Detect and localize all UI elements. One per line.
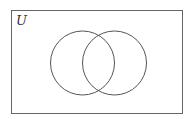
- venn-diagram: U: [0, 0, 193, 119]
- universe-label: U: [16, 13, 28, 28]
- universe-rectangle: [12, 11, 183, 114]
